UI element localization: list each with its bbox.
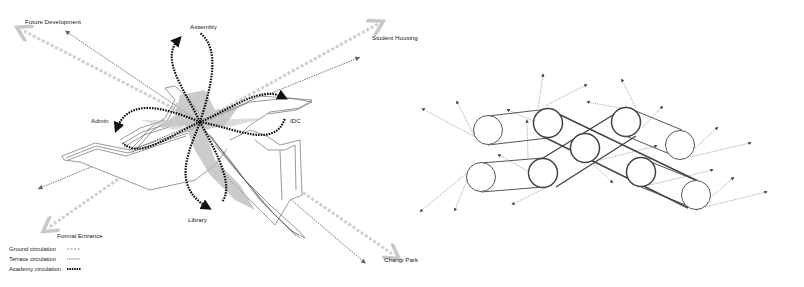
right-panel-node-network xyxy=(421,75,766,211)
legend-item-academy: Academy circulation xyxy=(9,266,81,272)
central-hub-point xyxy=(198,120,202,124)
label-formal-entrance: Formal Entrance xyxy=(57,232,103,239)
label-assembly: Assembly xyxy=(190,23,218,30)
node-circle-4 xyxy=(612,108,641,137)
legend-label-ground: Ground circulation xyxy=(9,246,56,252)
node-circle-2 xyxy=(534,109,563,138)
label-student-housing: Student Housing xyxy=(372,34,418,41)
circulation-diagram: Future Development Assembly Student Hous… xyxy=(0,0,804,287)
legend-label-terrace: Terrace circulation xyxy=(9,256,56,262)
legend: Ground circulation Terrace circulation A… xyxy=(9,246,81,272)
legend-item-terrace: Terrace circulation xyxy=(9,256,80,262)
node-circle-center xyxy=(571,134,600,163)
left-panel-site-diagram: Future Development Assembly Student Hous… xyxy=(9,18,419,272)
label-changi-park: Changi Park xyxy=(384,256,419,263)
node-circle-5 xyxy=(666,131,695,160)
label-library: Library xyxy=(188,216,208,223)
node-circle-8 xyxy=(627,158,656,187)
legend-item-ground: Ground circulation xyxy=(9,246,80,252)
node-circle-1 xyxy=(474,116,503,145)
node-circle-7 xyxy=(529,159,558,188)
legend-label-academy: Academy circulation xyxy=(9,266,61,272)
node-circle-9 xyxy=(682,181,711,210)
network-nodes xyxy=(467,108,711,210)
label-admin: Admin xyxy=(91,117,109,124)
node-circle-6 xyxy=(467,163,496,192)
label-idc: IDC xyxy=(290,117,301,124)
label-future-development: Future Development xyxy=(25,18,81,25)
